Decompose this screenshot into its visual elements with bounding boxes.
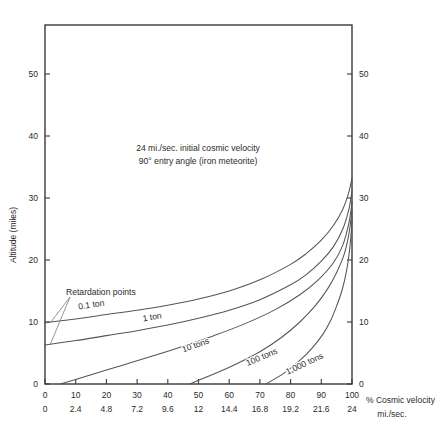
y-tick-label-left-40: 40 — [29, 131, 39, 141]
chart-subtitle: 90° entry angle (iron meteorite) — [139, 156, 258, 166]
meteorite-retardation-chart: 01020304050 01020304050 00102.4204.8307.… — [0, 0, 447, 435]
x-tick-label-percent-70: 70 — [255, 390, 265, 400]
y-tick-label-right-10: 10 — [359, 317, 369, 327]
x-tick-label-mips-14.4: 14.4 — [221, 404, 238, 414]
x-tick-label-mips-7.2: 7.2 — [131, 404, 143, 414]
y-tick-label-right-0: 0 — [359, 379, 364, 389]
chart-figure: 01020304050 01020304050 00102.4204.8307.… — [0, 0, 447, 435]
chart-title: 24 mi./sec. initial cosmic velocity — [136, 143, 260, 153]
x-tick-label-percent-80: 80 — [286, 390, 296, 400]
x-tick-label-mips-19.2: 19.2 — [282, 404, 299, 414]
x-tick-label-mips-4.8: 4.8 — [100, 404, 112, 414]
x-tick-label-percent-60: 60 — [224, 390, 234, 400]
x-tick-label-mips-16.8: 16.8 — [252, 404, 269, 414]
x-tick-label-percent-40: 40 — [163, 390, 173, 400]
y-tick-label-right-50: 50 — [359, 69, 369, 79]
annotation-retardation-points: Retardation points — [66, 287, 136, 297]
x-axis-title-secondary: mi./sec. — [377, 409, 406, 419]
x-tick-label-mips-21.6: 21.6 — [313, 404, 330, 414]
y-tick-label-right-30: 30 — [359, 193, 369, 203]
x-tick-label-mips-12: 12 — [194, 404, 204, 414]
x-axis-title: % Cosmic velocity — [366, 395, 436, 405]
x-tick-label-mips-9.6: 9.6 — [162, 404, 174, 414]
x-tick-label-percent-90: 90 — [317, 390, 327, 400]
x-tick-label-mips-0: 0 — [43, 404, 48, 414]
y-tick-label-left-10: 10 — [29, 317, 39, 327]
y-tick-label-right-20: 20 — [359, 255, 369, 265]
y-tick-label-left-0: 0 — [33, 379, 38, 389]
x-tick-label-percent-50: 50 — [194, 390, 204, 400]
y-tick-label-left-50: 50 — [29, 69, 39, 79]
y-axis-title: Altitude (miles) — [8, 207, 18, 263]
x-tick-label-percent-0: 0 — [43, 390, 48, 400]
x-tick-label-percent-10: 10 — [71, 390, 81, 400]
x-tick-label-mips-2.4: 2.4 — [70, 404, 82, 414]
x-tick-label-percent-20: 20 — [102, 390, 112, 400]
x-tick-label-percent-30: 30 — [132, 390, 142, 400]
x-tick-label-percent-100: 100 — [345, 390, 359, 400]
x-tick-label-mips-24: 24 — [347, 404, 357, 414]
y-tick-label-left-30: 30 — [29, 193, 39, 203]
y-tick-label-right-40: 40 — [359, 131, 369, 141]
y-tick-label-left-20: 20 — [29, 255, 39, 265]
